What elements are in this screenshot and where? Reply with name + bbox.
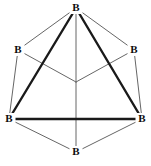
atom-label-b-lower-right: B (136, 113, 149, 125)
structure-bond-network (0, 0, 151, 166)
bond-thin-b-upper-left-to-b-lower-left (9, 50, 18, 119)
atom-label-b-top: B (70, 2, 83, 14)
atom-label-b-upper-left: B (12, 44, 25, 56)
bond-thin-b-top-to-b-upper-left (18, 8, 76, 50)
thin-bond-group (9, 8, 142, 152)
bond-thin-b-top-to-b-upper-right (76, 8, 134, 50)
bond-thin-b-lower-left-to-b-bottom (9, 119, 76, 152)
bond-thin-b-lower-right-to-b-bottom (76, 119, 142, 152)
bond-thick-b-top-to-b-lower-left (9, 8, 76, 119)
chemical-structure-figure: BBBBBB (0, 0, 151, 166)
bond-thick-b-top-to-b-lower-right (76, 8, 142, 119)
atom-label-b-bottom: B (70, 146, 83, 158)
atom-label-b-lower-left: B (3, 113, 16, 125)
atom-label-b-upper-right: B (128, 44, 141, 56)
